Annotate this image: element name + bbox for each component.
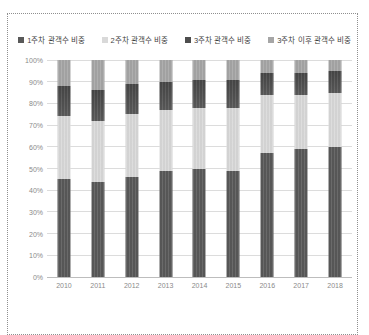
bar-column-2014 xyxy=(183,60,217,277)
bar-column-2017 xyxy=(284,60,318,277)
bar-segment xyxy=(159,82,172,110)
bar-segment xyxy=(91,90,104,120)
bar-segment xyxy=(125,114,138,177)
bar-segment xyxy=(57,116,70,179)
bar-segment xyxy=(227,108,240,171)
bar-segment xyxy=(91,182,104,277)
bar-segment xyxy=(91,60,104,90)
bar-column-2012 xyxy=(115,60,149,277)
bar-segment xyxy=(125,60,138,84)
stacked-bar-2012 xyxy=(125,60,138,277)
bar-segment xyxy=(125,84,138,114)
bar-segment xyxy=(261,153,274,277)
bar-segment xyxy=(57,60,70,86)
bar-column-2010 xyxy=(47,60,81,277)
legend-marker-icon xyxy=(268,37,274,43)
legend-marker-icon xyxy=(18,37,24,43)
y-tick-label: 30% xyxy=(9,208,43,215)
bar-segment xyxy=(159,60,172,82)
bar-segment xyxy=(329,147,342,277)
legend: 1주차 관객수 비중2주차 관객수 비중3주차 관객수 비중3주차 이후 관객수… xyxy=(14,34,355,45)
y-tick-label: 20% xyxy=(9,230,43,237)
legend-marker-icon xyxy=(102,37,108,43)
legend-label: 2주차 관객수 비중 xyxy=(111,34,168,45)
bar-segment xyxy=(261,60,274,73)
y-tick-label: 90% xyxy=(9,78,43,85)
bar-segment xyxy=(295,95,308,149)
chart-frame: 1주차 관객수 비중2주차 관객수 비중3주차 관객수 비중3주차 이후 관객수… xyxy=(7,13,358,335)
legend-item: 3주차 관객수 비중 xyxy=(185,34,251,45)
legend-item: 3주차 이후 관객수 비중 xyxy=(268,34,350,45)
bar-segment xyxy=(227,171,240,277)
y-tick-label: 10% xyxy=(9,252,43,259)
bar-segment xyxy=(57,86,70,116)
legend-item: 2주차 관객수 비중 xyxy=(102,34,168,45)
y-tick-label: 60% xyxy=(9,143,43,150)
y-tick-label: 100% xyxy=(9,57,43,64)
bar-segment xyxy=(295,149,308,277)
bar-column-2013 xyxy=(149,60,183,277)
legend-item: 1주차 관객수 비중 xyxy=(18,34,84,45)
bar-segment xyxy=(261,73,274,95)
legend-label: 3주차 관객수 비중 xyxy=(194,34,251,45)
bar-segment xyxy=(125,177,138,277)
y-tick-label: 40% xyxy=(9,187,43,194)
bar-segment xyxy=(193,60,206,80)
plot-area: 100%90%80%70%60%50%40%30%20%10%0%2010201… xyxy=(47,60,352,277)
legend-label: 1주차 관객수 비중 xyxy=(27,34,84,45)
stacked-bar-2010 xyxy=(57,60,70,277)
bar-segment xyxy=(227,80,240,108)
y-tick-label: 50% xyxy=(9,165,43,172)
stacked-bar-2014 xyxy=(193,60,206,277)
bar-column-2015 xyxy=(216,60,250,277)
bar-segment xyxy=(329,71,342,93)
bar-column-2018 xyxy=(318,60,352,277)
stacked-bar-2017 xyxy=(295,60,308,277)
bar-segment xyxy=(159,171,172,277)
bar-segment xyxy=(159,110,172,171)
bar-column-2016 xyxy=(250,60,284,277)
x-tick-label: 2018 xyxy=(315,282,355,289)
stacked-bar-2016 xyxy=(261,60,274,277)
bar-segment xyxy=(193,80,206,108)
bar-segment xyxy=(329,93,342,147)
bar-segment xyxy=(193,169,206,278)
stacked-bar-2018 xyxy=(329,60,342,277)
stacked-bar-2015 xyxy=(227,60,240,277)
legend-marker-icon xyxy=(185,37,191,43)
y-tick-label: 80% xyxy=(9,100,43,107)
bar-column-2011 xyxy=(81,60,115,277)
bar-segment xyxy=(91,121,104,182)
bar-segment xyxy=(295,60,308,73)
bar-segment xyxy=(261,95,274,154)
bar-segment xyxy=(329,60,342,71)
stacked-bar-2013 xyxy=(159,60,172,277)
bar-segment xyxy=(193,108,206,169)
legend-label: 3주차 이후 관객수 비중 xyxy=(277,34,350,45)
stacked-bar-2011 xyxy=(91,60,104,277)
y-tick-label: 70% xyxy=(9,122,43,129)
y-tick-label: 0% xyxy=(9,274,43,281)
bar-segment xyxy=(227,60,240,80)
bar-segment xyxy=(295,73,308,95)
bar-segment xyxy=(57,179,70,277)
